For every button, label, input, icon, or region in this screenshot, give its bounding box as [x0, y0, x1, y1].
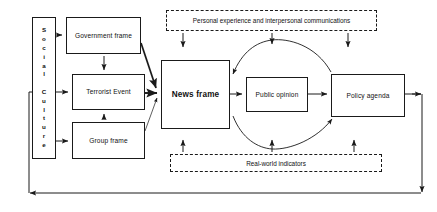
node-label: Policy agenda: [346, 92, 389, 100]
edge-news-to-policy-arc-right: [272, 119, 332, 149]
node-label: Terrorist Event: [86, 88, 130, 96]
node-label: Group frame: [89, 137, 127, 145]
vletter: a: [42, 62, 45, 71]
node-government-frame: Government frame: [66, 17, 141, 54]
node-public-opinion: Public opinion: [246, 77, 308, 112]
vletter: u: [42, 123, 46, 132]
vletter: C: [42, 88, 46, 97]
vletter: i: [43, 53, 45, 62]
vletter: o: [42, 35, 46, 44]
vletter: r: [43, 132, 45, 141]
vletter: t: [43, 114, 45, 123]
vletter: c: [42, 44, 45, 53]
node-terrorist-event: Terrorist Event: [72, 74, 145, 110]
node-news-frame: News frame: [161, 60, 230, 129]
node-label: Public opinion: [256, 91, 299, 99]
social-culture-box: S o c i a l C u l t u r e: [32, 17, 56, 159]
node-group-frame: Group frame: [72, 122, 145, 159]
vletter: l: [43, 106, 45, 115]
edge-policy-to-news-arc-left: [233, 40, 272, 74]
edge-group-to-news: [145, 98, 157, 131]
edge-policy-to-news-arc: [272, 40, 331, 72]
node-label: Government frame: [75, 32, 132, 40]
node-label: News frame: [172, 90, 220, 99]
node-label: Personal experience and interpersonal co…: [193, 17, 350, 24]
edge-news-to-policy-arc: [233, 116, 272, 149]
social-culture-word-culture: C u l t u r e: [42, 88, 46, 150]
vletter: l: [43, 70, 45, 79]
node-policy-agenda: Policy agenda: [331, 74, 405, 117]
vletter: S: [42, 26, 46, 35]
vletter: e: [42, 141, 45, 150]
node-personal-experience: Personal experience and interpersonal co…: [166, 10, 377, 31]
vletter: u: [42, 97, 46, 106]
social-culture-word-social: S o c i a l: [42, 26, 46, 79]
node-real-world-indicators: Real-world indicators: [170, 154, 382, 172]
node-label: Real-world indicators: [246, 160, 306, 167]
diagram-canvas: S o c i a l C u l t u r e Government fra…: [0, 0, 437, 212]
